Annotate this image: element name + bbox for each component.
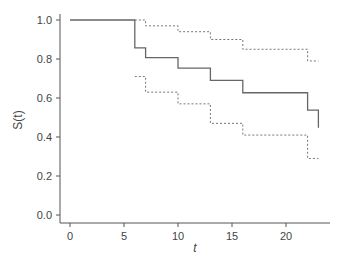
y-tick-label: 0.8	[37, 53, 52, 65]
lower-ci-curve	[135, 77, 319, 159]
x-tick-label: 20	[280, 230, 292, 242]
x-tick-label: 5	[121, 230, 127, 242]
y-tick-label: 0.2	[37, 170, 52, 182]
survival-chart: 0.00.20.40.60.81.0 05101520 t S(t)	[0, 0, 345, 264]
upper-ci-curve	[135, 20, 319, 61]
axes	[60, 14, 330, 223]
x-ticks: 05101520	[67, 223, 292, 242]
y-ticks: 0.00.20.40.60.81.0	[37, 14, 60, 221]
y-tick-label: 0.4	[37, 131, 52, 143]
y-axis-label: S(t)	[11, 110, 25, 129]
x-axis-label: t	[193, 241, 197, 255]
y-tick-label: 0.6	[37, 92, 52, 104]
x-tick-label: 10	[172, 230, 184, 242]
series-group	[70, 20, 318, 158]
x-tick-label: 15	[226, 230, 238, 242]
y-tick-label: 0.0	[37, 209, 52, 221]
x-tick-label: 0	[67, 230, 73, 242]
survival-curve	[70, 20, 318, 128]
y-tick-label: 1.0	[37, 14, 52, 26]
